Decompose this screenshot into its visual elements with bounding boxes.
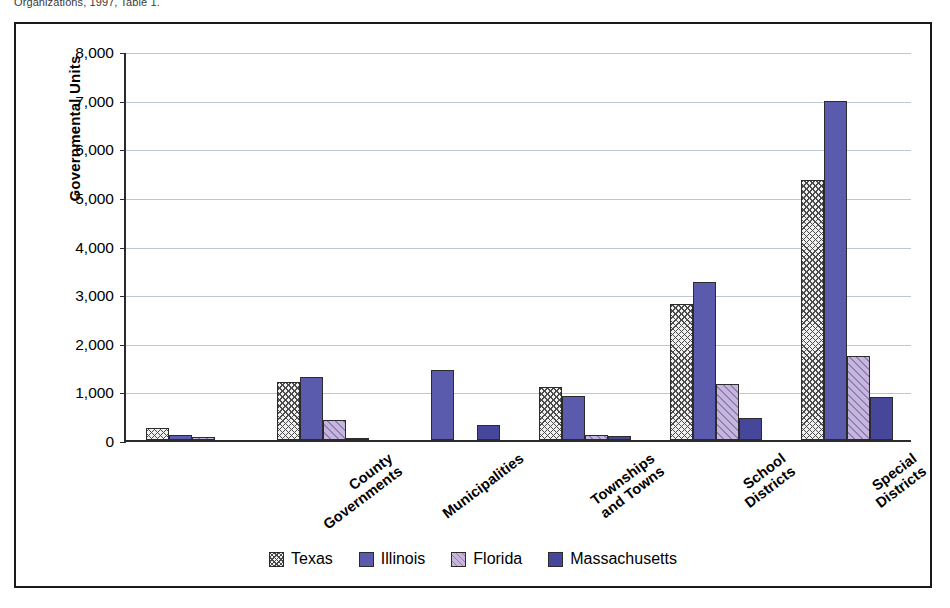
y-tick-mark	[120, 248, 126, 249]
y-tick-label: 8,000	[46, 45, 114, 61]
bar-massachusetts	[870, 397, 893, 440]
legend-swatch-icon	[269, 552, 284, 567]
bar-texas	[801, 180, 824, 440]
bar-group	[670, 53, 762, 440]
bar-group	[277, 53, 369, 440]
bar-illinois	[824, 101, 847, 440]
gridline	[126, 393, 911, 394]
legend-swatch-icon	[548, 552, 563, 567]
bar-massachusetts	[739, 418, 762, 440]
y-tick-label: 5,000	[46, 191, 114, 207]
legend-item-illinois[interactable]: Illinois	[359, 550, 425, 568]
chart-legend: TexasIllinoisFloridaMassachusetts	[16, 550, 930, 568]
bar-florida	[847, 356, 870, 440]
bar-illinois	[300, 377, 323, 440]
bar-group	[801, 53, 893, 440]
bar-texas	[277, 382, 300, 440]
gridline	[126, 53, 911, 54]
bar-massachusetts	[477, 425, 500, 440]
bar-florida	[323, 420, 346, 440]
legend-item-texas[interactable]: Texas	[269, 550, 333, 568]
gridline	[126, 248, 911, 249]
y-tick-mark	[120, 53, 126, 54]
y-tick-label: 7,000	[46, 94, 114, 110]
bar-florida	[585, 435, 608, 440]
legend-label: Illinois	[381, 550, 425, 568]
y-tick-label: 2,000	[46, 337, 114, 353]
y-tick-mark	[120, 345, 126, 346]
bar-illinois	[169, 435, 192, 440]
bar-group	[539, 53, 631, 440]
gridline	[126, 102, 911, 103]
y-tick-label: 3,000	[46, 288, 114, 304]
bar-illinois	[562, 396, 585, 440]
bar-group	[146, 53, 238, 440]
bar-illinois	[693, 282, 716, 440]
bar-texas	[670, 304, 693, 440]
legend-swatch-icon	[359, 552, 374, 567]
y-tick-mark	[120, 199, 126, 200]
gridline	[126, 199, 911, 200]
legend-item-florida[interactable]: Florida	[451, 550, 522, 568]
plot-area	[124, 53, 911, 442]
legend-label: Massachusetts	[570, 550, 677, 568]
y-tick-mark	[120, 296, 126, 297]
bar-texas	[539, 387, 562, 440]
y-tick-mark	[120, 442, 126, 443]
y-tick-label: 4,000	[46, 240, 114, 256]
bar-florida	[192, 437, 215, 440]
chart-figure-frame: Governmental Units 8,0007,0006,0005,0004…	[14, 22, 932, 588]
y-tick-label: 0	[46, 434, 114, 450]
bar-massachusetts	[608, 436, 631, 440]
bar-group	[408, 53, 500, 440]
y-tick-mark	[120, 393, 126, 394]
gridline	[126, 150, 911, 151]
x-tick-label: Municipalities	[381, 450, 527, 565]
legend-label: Texas	[291, 550, 333, 568]
legend-swatch-icon	[451, 552, 466, 567]
y-tick-mark	[120, 150, 126, 151]
y-tick-label: 6,000	[46, 142, 114, 158]
legend-label: Florida	[473, 550, 522, 568]
source-note: Organizations, 1997, Table 1.	[14, 0, 160, 8]
y-tick-mark	[120, 102, 126, 103]
legend-item-massachusetts[interactable]: Massachusetts	[548, 550, 677, 568]
bar-illinois	[431, 370, 454, 440]
y-tick-label: 1,000	[46, 385, 114, 401]
bar-massachusetts	[346, 438, 369, 440]
bar-texas	[146, 428, 169, 440]
gridline	[126, 345, 911, 346]
bar-florida	[716, 384, 739, 440]
gridline	[126, 296, 911, 297]
